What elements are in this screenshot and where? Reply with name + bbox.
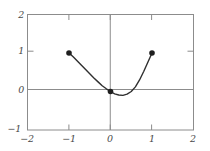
- y-tick-label-neg1: −1: [5, 124, 21, 134]
- x-tick-label-0: 0: [102, 134, 118, 144]
- y-axis-ticks: [28, 51, 34, 89]
- x-tick-label-neg2: −2: [19, 134, 35, 144]
- x-axis-ticks-top: [69, 15, 152, 21]
- y-tick-label-0: 0: [8, 85, 24, 95]
- point-left: [66, 50, 72, 56]
- y-tick-label-2: 2: [8, 10, 24, 20]
- chart-figure: 2 1 0 −1 −2 −1 0 1 2: [0, 0, 210, 151]
- x-axis-ticks: [69, 125, 152, 131]
- y-tick-label-1: 1: [8, 46, 24, 56]
- x-tick-label-2: 2: [185, 134, 201, 144]
- point-right: [149, 50, 155, 56]
- x-tick-label-1: 1: [144, 134, 160, 144]
- plot-area: [0, 0, 210, 151]
- point-origin: [108, 89, 114, 95]
- x-tick-label-neg1: −1: [61, 134, 77, 144]
- y-axis-ticks-right: [188, 51, 194, 89]
